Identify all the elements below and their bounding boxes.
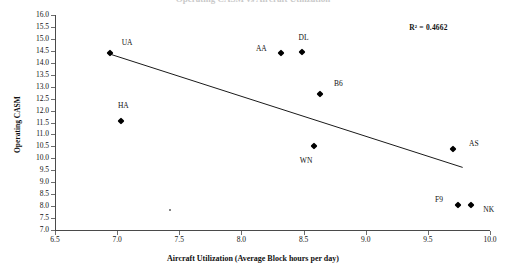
data-point-label: UA xyxy=(122,39,133,47)
chart-figure: Operating CASM vs Aircraft Utilization R… xyxy=(0,0,506,277)
trendline xyxy=(0,0,506,277)
data-point-label: NK xyxy=(483,206,494,214)
data-point-label: B6 xyxy=(334,80,343,88)
data-point-label: AS xyxy=(469,140,479,148)
data-point-label: F9 xyxy=(435,196,443,204)
data-point-label: HA xyxy=(118,102,129,110)
data-point-label: DL xyxy=(299,34,309,42)
stray-speck xyxy=(169,209,171,211)
data-point-label: WN xyxy=(300,157,313,165)
data-point-label: AA xyxy=(256,45,267,53)
